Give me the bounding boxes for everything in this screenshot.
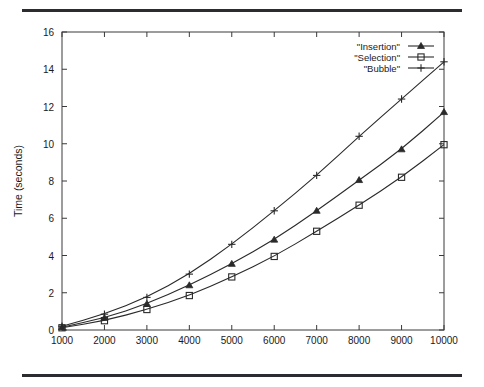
legend-label-2: "Bubble" — [364, 63, 400, 74]
y-axis-tick-label: 2 — [48, 288, 54, 299]
chart-svg: 1000200030004000500060007000800090001000… — [0, 14, 484, 364]
x-axis-tick-label: 1000 — [51, 335, 74, 346]
data-point-marker — [228, 260, 235, 266]
data-point-marker — [441, 109, 448, 115]
y-axis-tick-label: 4 — [48, 251, 54, 262]
legend-label-1: "Selection" — [354, 52, 400, 63]
series-0 — [59, 109, 448, 330]
y-axis-tick-label: 12 — [43, 102, 55, 113]
x-axis-tick-label: 10000 — [430, 335, 458, 346]
y-axis-tick-label: 0 — [48, 325, 54, 336]
y-axis-tick-label: 16 — [43, 27, 55, 38]
series-1 — [59, 142, 447, 331]
data-point-marker — [186, 282, 193, 288]
figure-container: 1000200030004000500060007000800090001000… — [0, 0, 484, 387]
series-line-0 — [62, 112, 444, 327]
top-horizontal-rule — [22, 9, 462, 12]
x-axis-tick-label: 9000 — [390, 335, 413, 346]
bottom-horizontal-rule — [22, 374, 462, 377]
x-axis-tick-label: 5000 — [221, 335, 244, 346]
y-axis-tick-label: 6 — [48, 213, 54, 224]
y-axis-tick-label: 8 — [48, 176, 54, 187]
legend-label-0: "Insertion" — [357, 41, 400, 52]
y-axis-tick-label: 14 — [43, 64, 55, 75]
x-axis-tick-label: 2000 — [93, 335, 116, 346]
data-point-marker — [143, 300, 150, 306]
data-point-marker — [356, 177, 363, 183]
x-axis-tick-label: 8000 — [348, 335, 371, 346]
y-axis-tick-label: 10 — [43, 139, 55, 150]
plot-frame — [62, 32, 444, 330]
series-line-2 — [62, 62, 444, 326]
x-axis-tick-label: 4000 — [178, 335, 201, 346]
x-axis-tick-label: 7000 — [306, 335, 329, 346]
x-axis-tick-label: 6000 — [263, 335, 286, 346]
chart-plot: 1000200030004000500060007000800090001000… — [0, 14, 484, 364]
y-axis-title: Time (seconds) — [12, 145, 24, 217]
series-2 — [58, 58, 447, 330]
x-axis-tick-label: 3000 — [136, 335, 159, 346]
series-line-1 — [62, 145, 444, 328]
